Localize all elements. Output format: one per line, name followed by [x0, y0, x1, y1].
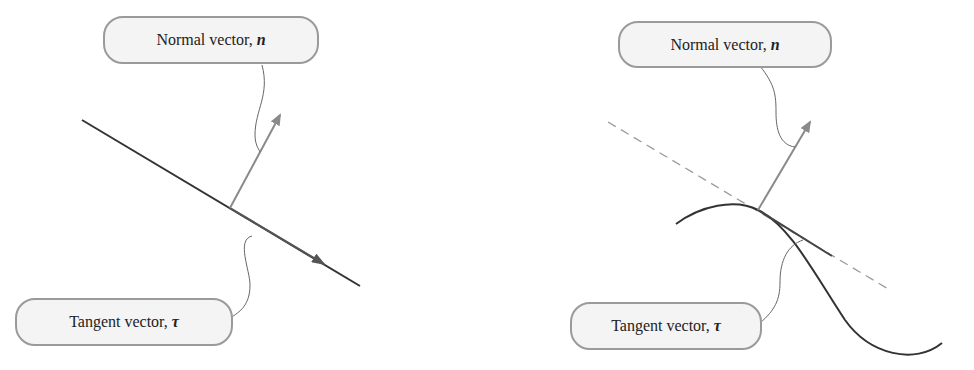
left-panel	[82, 65, 360, 318]
left-normal-symbol: n	[257, 31, 266, 49]
left-tangent-label: Tangent vector, τ	[15, 298, 233, 346]
left-normal-label-text: Normal vector,	[156, 31, 252, 49]
right-tangent-label-text: Tangent vector,	[611, 317, 710, 335]
right-normal-symbol: n	[771, 36, 780, 54]
tangent-leader-line	[760, 240, 803, 323]
normal-leader-line	[760, 66, 795, 147]
left-normal-label: Normal vector, n	[103, 16, 319, 64]
right-normal-label: Normal vector, n	[618, 21, 832, 68]
right-tangent-symbol: τ	[714, 317, 721, 335]
right-normal-label-text: Normal vector,	[670, 36, 766, 54]
left-tangent-label-text: Tangent vector,	[69, 313, 168, 331]
tangent-leader-line	[230, 236, 252, 318]
normal-leader-line	[255, 65, 264, 152]
right-tangent-label: Tangent vector, τ	[570, 302, 762, 350]
left-tangent-symbol: τ	[172, 313, 179, 331]
normal-vector-arrow	[758, 122, 810, 210]
tangent-vector-segment	[758, 210, 832, 256]
tangent-vector-arrow	[230, 208, 324, 264]
